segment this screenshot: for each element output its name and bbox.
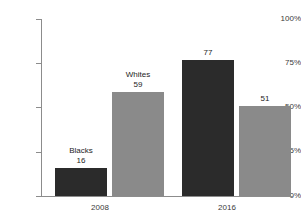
x-axis-line [41,196,293,197]
plot-area: Blacks 16 Whites 59 77 51 [41,19,293,196]
bar-2016-blacks [182,60,234,196]
series-value-blacks-2016: 77 [177,48,239,58]
series-value-whites-2008: 59 [107,80,169,90]
label-2016-blacks: 77 [177,48,239,58]
series-name-whites: Whites [107,70,169,80]
series-name-blacks: Blacks [50,146,112,156]
x-category-label-2016: 2016 [197,203,257,212]
bar-2008-blacks [55,168,107,196]
bar-chart: 100% 75% 50% 25% 0% Blacks 16 Whites 59 … [0,0,301,223]
x-category-label-2008: 2008 [70,203,130,212]
series-value-whites-2016: 51 [234,94,296,104]
label-2008-whites: Whites 59 [107,70,169,90]
label-2008-blacks: Blacks 16 [50,146,112,166]
series-value-blacks-2008: 16 [50,156,112,166]
bar-2008-whites [112,92,164,196]
label-2016-whites: 51 [234,94,296,104]
bar-2016-whites [239,106,291,196]
